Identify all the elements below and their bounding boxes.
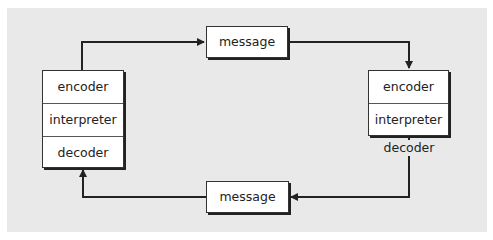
left-decoder-cell: decoder — [43, 137, 123, 170]
right-decoder-label: decoder — [369, 140, 449, 156]
right-node: encoder interpreter — [368, 70, 449, 136]
right-encoder-cell: encoder — [369, 71, 448, 104]
top-message-label: message — [207, 27, 287, 57]
left-encoder-cell: encoder — [43, 71, 123, 104]
left-node: encoder interpreter decoder — [42, 70, 124, 168]
bottom-message-box: message — [206, 181, 289, 213]
bottom-message-label: message — [207, 182, 288, 212]
left-interpreter-cell: interpreter — [43, 104, 123, 137]
top-message-box: message — [206, 26, 288, 58]
right-interpreter-cell: interpreter — [369, 104, 448, 137]
